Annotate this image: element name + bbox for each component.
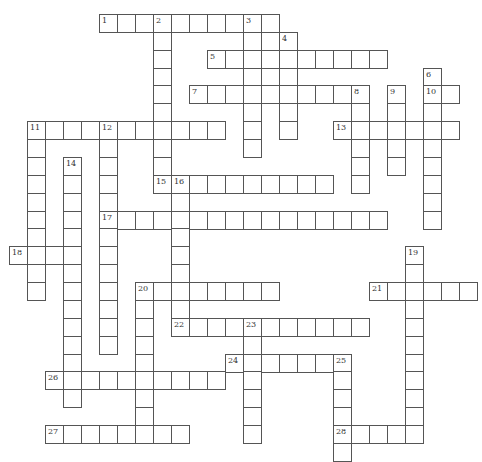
crossword-cell[interactable]: 4	[279, 32, 298, 51]
crossword-cell[interactable]: 5	[207, 50, 226, 69]
crossword-cell[interactable]	[423, 157, 442, 176]
crossword-cell[interactable]	[189, 371, 208, 390]
crossword-cell[interactable]	[135, 211, 154, 230]
crossword-cell[interactable]	[387, 425, 406, 444]
crossword-cell[interactable]	[135, 318, 154, 337]
crossword-cell[interactable]	[405, 425, 424, 444]
crossword-cell[interactable]	[207, 175, 226, 194]
crossword-cell[interactable]	[27, 175, 46, 194]
crossword-cell[interactable]	[333, 85, 352, 104]
crossword-cell[interactable]: 1	[99, 14, 118, 33]
crossword-cell[interactable]	[405, 389, 424, 408]
crossword-cell[interactable]	[315, 175, 334, 194]
crossword-cell[interactable]	[333, 443, 352, 462]
crossword-cell[interactable]	[387, 121, 406, 140]
crossword-cell[interactable]	[261, 211, 280, 230]
crossword-cell[interactable]	[423, 282, 442, 301]
crossword-cell[interactable]	[333, 407, 352, 426]
crossword-cell[interactable]	[99, 425, 118, 444]
crossword-cell[interactable]: 14	[63, 157, 82, 176]
crossword-cell[interactable]	[333, 50, 352, 69]
crossword-cell[interactable]	[279, 175, 298, 194]
crossword-cell[interactable]	[279, 318, 298, 337]
crossword-cell[interactable]	[243, 103, 262, 122]
crossword-cell[interactable]	[171, 371, 190, 390]
crossword-cell[interactable]	[153, 103, 172, 122]
crossword-cell[interactable]	[189, 282, 208, 301]
crossword-cell[interactable]	[297, 175, 316, 194]
crossword-cell[interactable]	[225, 282, 244, 301]
crossword-cell[interactable]	[423, 121, 442, 140]
crossword-cell[interactable]	[315, 50, 334, 69]
crossword-cell[interactable]	[315, 211, 334, 230]
crossword-cell[interactable]	[423, 103, 442, 122]
crossword-cell[interactable]: 13	[333, 121, 352, 140]
crossword-cell[interactable]	[189, 14, 208, 33]
crossword-cell[interactable]	[351, 211, 370, 230]
crossword-cell[interactable]	[153, 282, 172, 301]
crossword-cell[interactable]	[351, 121, 370, 140]
crossword-cell[interactable]	[261, 318, 280, 337]
crossword-cell[interactable]	[261, 282, 280, 301]
crossword-cell[interactable]	[135, 425, 154, 444]
crossword-cell[interactable]	[153, 85, 172, 104]
crossword-cell[interactable]	[63, 336, 82, 355]
crossword-cell[interactable]	[243, 336, 262, 355]
crossword-cell[interactable]	[63, 121, 82, 140]
crossword-cell[interactable]	[27, 228, 46, 247]
crossword-cell[interactable]	[297, 85, 316, 104]
crossword-cell[interactable]	[405, 282, 424, 301]
crossword-cell[interactable]	[243, 32, 262, 51]
crossword-cell[interactable]	[99, 336, 118, 355]
crossword-cell[interactable]	[279, 85, 298, 104]
crossword-cell[interactable]	[405, 300, 424, 319]
crossword-cell[interactable]	[207, 282, 226, 301]
crossword-cell[interactable]	[279, 50, 298, 69]
crossword-cell[interactable]	[99, 157, 118, 176]
crossword-cell[interactable]	[225, 50, 244, 69]
crossword-cell[interactable]	[351, 157, 370, 176]
crossword-cell[interactable]	[189, 318, 208, 337]
crossword-cell[interactable]	[153, 157, 172, 176]
crossword-cell[interactable]	[405, 371, 424, 390]
crossword-cell[interactable]: 26	[45, 371, 64, 390]
crossword-cell[interactable]	[81, 121, 100, 140]
crossword-cell[interactable]	[297, 354, 316, 373]
crossword-cell[interactable]	[351, 103, 370, 122]
crossword-cell[interactable]	[315, 318, 334, 337]
crossword-cell[interactable]	[441, 85, 460, 104]
crossword-cell[interactable]: 16	[171, 175, 190, 194]
crossword-cell[interactable]	[135, 121, 154, 140]
crossword-cell[interactable]: 7	[189, 85, 208, 104]
crossword-cell[interactable]	[171, 228, 190, 247]
crossword-cell[interactable]	[315, 354, 334, 373]
crossword-cell[interactable]	[441, 121, 460, 140]
crossword-cell[interactable]	[243, 175, 262, 194]
crossword-cell[interactable]	[135, 407, 154, 426]
crossword-cell[interactable]	[99, 318, 118, 337]
crossword-cell[interactable]	[351, 425, 370, 444]
crossword-cell[interactable]: 21	[369, 282, 388, 301]
crossword-cell[interactable]	[63, 389, 82, 408]
crossword-cell[interactable]	[207, 318, 226, 337]
crossword-cell[interactable]	[243, 211, 262, 230]
crossword-cell[interactable]	[81, 371, 100, 390]
crossword-cell[interactable]	[261, 175, 280, 194]
crossword-cell[interactable]	[279, 121, 298, 140]
crossword-cell[interactable]	[207, 211, 226, 230]
crossword-cell[interactable]	[99, 264, 118, 283]
crossword-cell[interactable]	[171, 246, 190, 265]
crossword-cell[interactable]: 10	[423, 85, 442, 104]
crossword-cell[interactable]	[135, 371, 154, 390]
crossword-cell[interactable]	[315, 85, 334, 104]
crossword-cell[interactable]	[279, 103, 298, 122]
crossword-cell[interactable]	[63, 282, 82, 301]
crossword-cell[interactable]	[423, 211, 442, 230]
crossword-cell[interactable]	[99, 193, 118, 212]
crossword-cell[interactable]	[387, 282, 406, 301]
crossword-cell[interactable]	[369, 425, 388, 444]
crossword-cell[interactable]: 3	[243, 14, 262, 33]
crossword-cell[interactable]	[459, 282, 478, 301]
crossword-cell[interactable]	[27, 264, 46, 283]
crossword-cell[interactable]	[171, 121, 190, 140]
